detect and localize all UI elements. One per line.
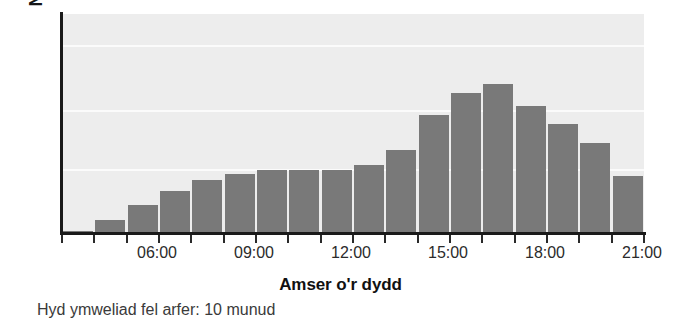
bar-series <box>62 14 644 233</box>
x-tick <box>643 235 645 243</box>
x-axis-title: Amser o'r dydd <box>0 275 681 295</box>
x-tick <box>223 235 225 243</box>
x-tick <box>417 235 419 243</box>
x-tick <box>93 235 95 243</box>
bar <box>516 106 546 233</box>
x-tick <box>611 235 613 243</box>
x-tick <box>320 235 322 243</box>
x-tick <box>158 235 160 243</box>
bar <box>483 84 513 233</box>
x-tick-label: 06:00 <box>137 244 177 262</box>
x-tick <box>352 235 354 243</box>
x-tick-label: 12:00 <box>331 244 371 262</box>
x-tick <box>578 235 580 243</box>
bar <box>225 174 255 233</box>
x-tick <box>384 235 386 243</box>
bar <box>257 170 287 234</box>
bar <box>192 180 222 233</box>
chart-caption: Hyd ymweliad fel arfer: 10 munud <box>37 301 275 319</box>
y-axis-title: Nifer yr ymwelwyr <box>22 0 50 42</box>
bar <box>160 191 190 233</box>
x-tick <box>449 235 451 243</box>
bar-chart-figure: Nifer yr ymwelwyr 06:0009:0012:0015:0018… <box>0 0 681 334</box>
x-tick <box>190 235 192 243</box>
x-tick <box>546 235 548 243</box>
x-tick-label: 21:00 <box>622 244 662 262</box>
x-tick <box>481 235 483 243</box>
x-tick <box>126 235 128 243</box>
bar <box>322 170 352 234</box>
plot-area <box>62 14 644 233</box>
x-tick <box>255 235 257 243</box>
x-tick-label: 18:00 <box>525 244 565 262</box>
bar <box>128 205 158 233</box>
y-axis-line <box>60 12 63 235</box>
x-tick <box>514 235 516 243</box>
x-tick-label: 09:00 <box>234 244 274 262</box>
x-tick <box>61 235 63 243</box>
bar <box>613 176 643 233</box>
bar <box>419 115 449 233</box>
bar <box>354 165 384 233</box>
bar <box>580 143 610 233</box>
x-tick-label: 15:00 <box>428 244 468 262</box>
x-tick <box>287 235 289 243</box>
bar <box>289 170 319 234</box>
bar <box>386 150 416 233</box>
bar <box>451 93 481 233</box>
bar <box>548 124 578 234</box>
